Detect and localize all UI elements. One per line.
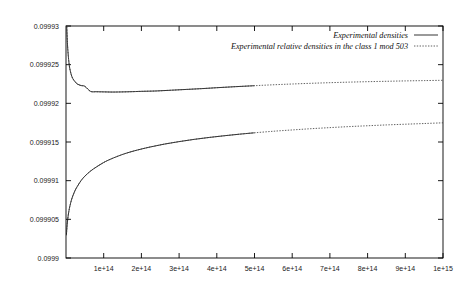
x-tick-label-1: 2e+14 <box>132 265 152 272</box>
y-tick-label-0: 0.0999 <box>38 255 60 262</box>
legend-label-1: Experimental relative densities in the c… <box>230 42 408 51</box>
series-curve-2 <box>66 133 254 235</box>
series-curve-0 <box>67 27 255 92</box>
y-tick-label-5: 0.099925 <box>30 61 59 68</box>
x-tick-label-7: 8e+14 <box>358 265 378 272</box>
y-tick-label-1: 0.099905 <box>30 216 59 223</box>
density-plot: 0.09990.0999050.099910.0999150.099920.09… <box>0 0 464 289</box>
series-curve-3 <box>66 123 443 235</box>
y-axis-ticks: 0.09990.0999050.099910.0999150.099920.09… <box>30 23 443 262</box>
chart-legend: Experimental densitiesExperimental relat… <box>230 31 438 51</box>
legend-label-0: Experimental densities <box>332 31 408 40</box>
x-tick-label-2: 3e+14 <box>169 265 189 272</box>
chart-page: 0.09990.0999050.099910.0999150.099920.09… <box>0 0 464 289</box>
data-curves <box>66 27 443 235</box>
x-axis-ticks: 1e+142e+143e+144e+145e+146e+147e+148e+14… <box>94 26 453 272</box>
x-tick-label-9: 1e+15 <box>433 265 453 272</box>
y-tick-label-4: 0.09992 <box>34 100 59 107</box>
x-tick-label-4: 5e+14 <box>245 265 265 272</box>
x-tick-label-0: 1e+14 <box>94 265 114 272</box>
x-tick-label-6: 7e+14 <box>320 265 340 272</box>
plot-frame <box>66 26 443 258</box>
x-tick-label-5: 6e+14 <box>282 265 302 272</box>
y-tick-label-2: 0.09991 <box>34 177 59 184</box>
x-tick-label-3: 4e+14 <box>207 265 227 272</box>
y-tick-label-3: 0.099915 <box>30 139 59 146</box>
y-tick-label-6: 0.09993 <box>34 23 59 30</box>
x-tick-label-8: 9e+14 <box>395 265 415 272</box>
